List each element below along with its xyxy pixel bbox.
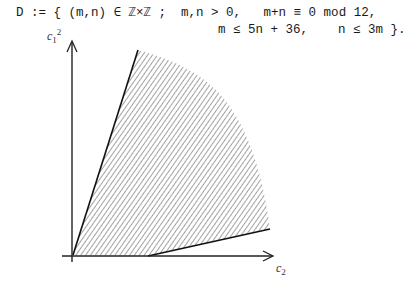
y-axis (67, 41, 77, 262)
y-axis-label: c12 (47, 28, 61, 45)
x-axis-label: c2 (276, 262, 286, 277)
hatched-region (73, 50, 270, 256)
